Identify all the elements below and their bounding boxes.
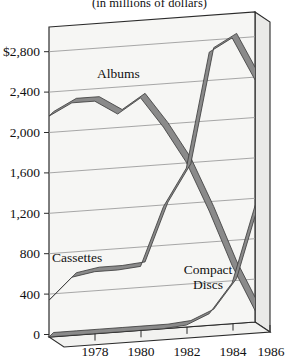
series-label-albums: Albums xyxy=(97,66,140,81)
y-tick-label-400: 400 xyxy=(0,288,40,302)
y-tick-label-800: 800 xyxy=(0,247,40,261)
y-axis-ticks xyxy=(44,52,49,335)
chart-svg xyxy=(0,0,299,363)
plot-side-panel xyxy=(255,12,270,332)
x-tick-label-1986: 1986 xyxy=(244,345,298,359)
y-tick-label-2400: 2,400 xyxy=(0,85,40,99)
series-label-compact-discs: Compact Discs xyxy=(176,262,240,292)
compact-discs-line2: Discs xyxy=(193,277,223,292)
y-tick-label-0: 0 xyxy=(0,328,40,342)
y-tick-label-2000: 2,000 xyxy=(0,126,40,140)
series-label-cassettes: Cassettes xyxy=(52,250,102,265)
compact-discs-line1: Compact xyxy=(184,262,233,277)
y-tick-label-2800: $2,800 xyxy=(0,45,40,59)
y-tick-label-1600: 1,600 xyxy=(0,166,40,180)
chart-container: (in millions of dollars) xyxy=(0,0,299,363)
y-tick-label-1200: 1,200 xyxy=(0,207,40,221)
